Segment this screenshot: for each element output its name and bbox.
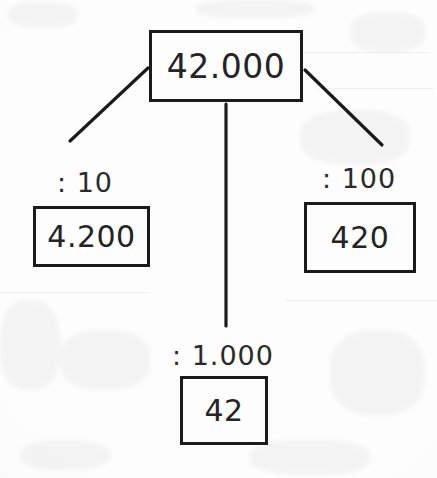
paper-smudge: [195, 0, 315, 18]
node-bottom-value: 42: [204, 396, 243, 426]
paper-ghost-rule: [0, 292, 150, 293]
paper-ghost-rule: [318, 88, 433, 89]
paper-ghost-rule: [300, 52, 430, 53]
paper-smudge: [60, 330, 150, 390]
connector-root-to-left: [70, 68, 148, 141]
paper-ghost-rule: [285, 300, 437, 301]
paper-smudge: [20, 440, 110, 470]
node-right-box: 420: [304, 202, 416, 273]
paper-smudge: [250, 440, 370, 475]
paper-smudge: [8, 2, 78, 28]
node-bottom-box: 42: [180, 376, 268, 445]
operator-label-left: : 10: [57, 169, 113, 196]
node-root-value: 42.000: [167, 50, 285, 83]
paper-smudge: [300, 110, 410, 165]
node-root-box: 42.000: [149, 30, 303, 102]
paper-smudge: [330, 330, 425, 415]
operator-label-right: : 100: [322, 165, 396, 192]
operator-label-bottom: : 1.000: [172, 342, 274, 369]
worksheet-canvas: 42.000 : 10 4.200 : 1.000 42 : 100 420: [0, 0, 437, 478]
node-right-value: 420: [331, 223, 390, 253]
node-left-value: 4.200: [47, 222, 135, 252]
connector-root-to-right: [305, 70, 382, 145]
paper-smudge: [0, 300, 60, 390]
node-left-box: 4.200: [33, 206, 150, 267]
paper-smudge: [350, 12, 425, 52]
